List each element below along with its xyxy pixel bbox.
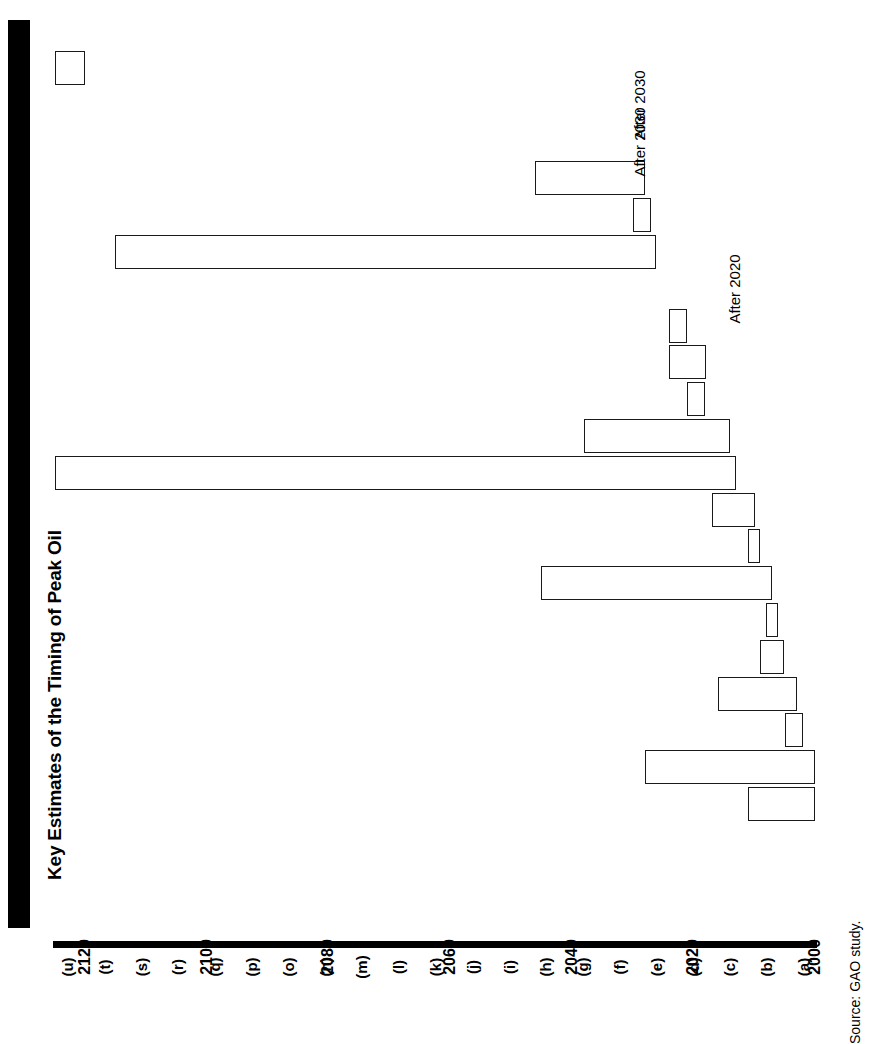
bar-range [785,713,803,747]
category-tick-label: (m) [353,947,371,987]
range-annotation: After 2030 [630,87,650,197]
bar-range [712,493,755,527]
bar-range [115,235,656,269]
bar-range [541,566,772,600]
category-tick-label: (c) [721,947,739,987]
year-tick-label: 2060 [440,925,460,989]
category-tick-label: (p) [243,947,261,987]
bar-range [633,198,651,232]
bar-range [718,677,797,711]
year-tick-label: 2040 [562,925,582,989]
bar-range [766,603,778,637]
range-annotation: After 2020 [725,234,745,344]
bar-range [669,345,706,379]
category-tick-label: (t) [96,947,114,987]
category-tick-label: (e) [648,947,666,987]
category-tick-label: (o) [280,947,298,987]
bar-range [687,382,705,416]
axis-baseline [53,941,817,948]
bar-range [645,750,815,784]
category-tick-label: (b) [758,947,776,987]
category-tick-label: (r) [169,947,187,987]
year-tick-label: 2080 [318,925,338,989]
year-tick-label: 2020 [683,925,703,989]
bar-range [535,161,645,195]
title-band [8,20,30,928]
category-tick-label: (h) [537,947,555,987]
page-title: Key Estimates of the Timing of Peak Oil [40,280,70,880]
category-tick-label: (i) [501,947,519,987]
bar-range [55,456,736,490]
year-tick-label: 2120 [75,925,95,989]
year-tick-label: 2000 [805,925,825,989]
bar-range [760,640,784,674]
category-tick-label: (l) [390,947,408,987]
source-note: Source: GAO study. [846,894,864,1044]
bar-range [748,787,815,821]
bar-range [55,51,85,85]
year-tick-label: 2100 [197,925,217,989]
category-tick-label: (f) [611,947,629,987]
bar-range [669,309,687,343]
category-tick-label: (j) [464,947,482,987]
bar-range [584,419,730,453]
category-tick-label: (s) [133,947,151,987]
bar-range [748,529,760,563]
